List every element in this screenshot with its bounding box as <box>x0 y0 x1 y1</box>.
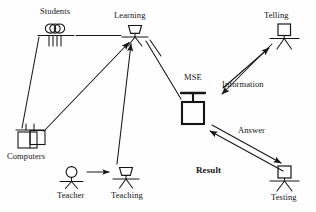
node-label-telling: Telling <box>264 10 289 20</box>
testing-icon <box>270 166 299 191</box>
teaching-icon <box>113 168 139 189</box>
edge-students-computers <box>22 37 39 128</box>
node-label-learning: Learning <box>114 10 145 20</box>
edge-teaching-learning <box>117 44 131 164</box>
computers-icon <box>16 124 45 148</box>
node-label-computers: Computers <box>7 151 45 161</box>
node-label-students: Students <box>40 6 70 16</box>
node-label-teaching: Teaching <box>111 190 143 200</box>
edge-learning-mse <box>146 41 181 99</box>
diagram-canvas: Students Learning Telling MSE Computers … <box>0 0 316 212</box>
edge-learning-right <box>150 40 161 56</box>
telling-icon <box>270 24 299 49</box>
teacher-icon <box>60 167 83 189</box>
edge-label-answer: Answer <box>238 125 265 135</box>
diagram-graphics <box>0 0 316 212</box>
edge-label-information: Information <box>222 79 264 89</box>
edge-computers-learning <box>44 43 129 132</box>
edge-label-result: Result <box>196 165 221 175</box>
node-label-teacher: Teacher <box>57 190 84 200</box>
students-icon <box>38 24 74 46</box>
node-label-mse: MSE <box>184 72 202 82</box>
learning-icon <box>122 26 148 47</box>
mse-icon <box>181 93 205 124</box>
node-label-testing: Testing <box>271 192 297 202</box>
